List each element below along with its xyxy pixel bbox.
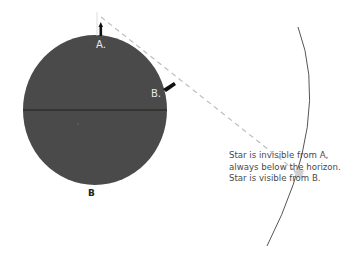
planet-center-dot (77, 123, 79, 125)
diagram-caption: Star is invisible from A, always below t… (229, 150, 329, 185)
caption-line: always below the horizon. (229, 162, 329, 174)
observer-a-label: A. (96, 39, 106, 50)
observer-a-marker (99, 22, 104, 36)
observer-b-marker (163, 82, 176, 92)
celestial-sphere-arc (267, 27, 310, 246)
caption-line: Star is visible from B. (229, 173, 329, 185)
caption-line: Star is invisible from A, (229, 150, 329, 162)
observer-b-label: B. (151, 88, 161, 99)
panel-label: B (88, 188, 95, 198)
